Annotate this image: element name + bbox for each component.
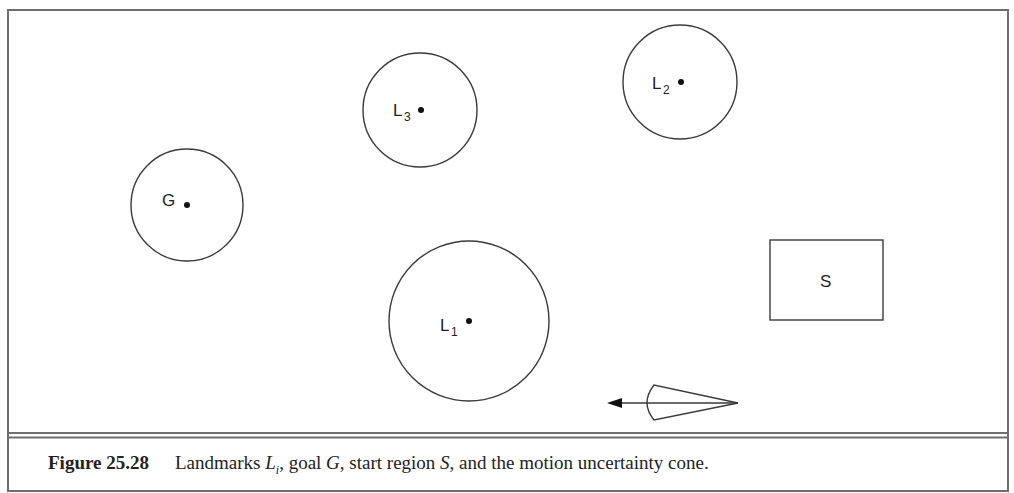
landmark-2-subscript: 2 bbox=[663, 83, 670, 97]
landmark-3-region: L 3 bbox=[363, 53, 477, 167]
start-region: S bbox=[770, 240, 883, 320]
arrowhead-icon bbox=[607, 398, 622, 408]
caption-text: , goal bbox=[279, 452, 326, 473]
motion-uncertainty-cone bbox=[607, 385, 738, 420]
caption-goal-symbol: G bbox=[326, 452, 340, 473]
caption-text: , start region bbox=[340, 452, 440, 473]
figure-number: Figure 25.28 bbox=[48, 452, 149, 473]
caption-landmark-symbol: L bbox=[265, 452, 276, 473]
landmark-3-point bbox=[418, 107, 424, 113]
landmark-1-label: L bbox=[440, 316, 449, 335]
goal-point bbox=[184, 202, 190, 208]
start-label: S bbox=[820, 272, 831, 291]
landmark-1-subscript: 1 bbox=[451, 325, 458, 339]
landmark-2-point bbox=[678, 79, 684, 85]
landmark-1-region: L 1 bbox=[389, 241, 549, 401]
landmark-3-label: L bbox=[393, 101, 402, 120]
caption-text: Landmarks bbox=[175, 452, 265, 473]
landmark-2-region: L 2 bbox=[623, 25, 737, 139]
landmark-1-point bbox=[466, 318, 472, 324]
diagram-canvas: G L 3 L 2 L 1 S bbox=[0, 0, 1014, 493]
goal-region: G bbox=[131, 149, 243, 261]
figure-caption: Figure 25.28Landmarks Li, goal G, start … bbox=[48, 452, 709, 478]
caption-text: , and the motion uncertainty cone. bbox=[450, 452, 709, 473]
landmark-2-label: L bbox=[652, 74, 661, 93]
goal-label: G bbox=[162, 191, 175, 210]
landmark-3-subscript: 3 bbox=[404, 110, 411, 124]
caption-start-symbol: S bbox=[440, 452, 450, 473]
